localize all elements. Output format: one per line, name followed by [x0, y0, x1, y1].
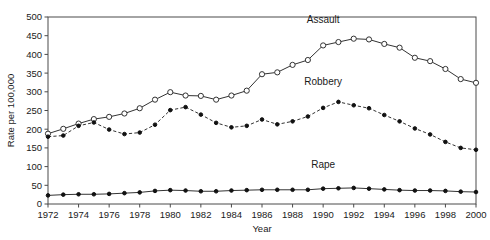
- data-point: [122, 111, 127, 116]
- x-tick-label: 1998: [435, 209, 456, 220]
- x-tick-label: 1990: [313, 209, 334, 220]
- x-tick-label: 1996: [404, 209, 425, 220]
- y-tick-label: 450: [26, 30, 42, 41]
- data-point: [428, 59, 433, 64]
- x-tick-label: 1982: [190, 209, 211, 220]
- x-tick-label: 1984: [221, 209, 242, 220]
- y-tick-label: 350: [26, 68, 42, 79]
- data-point: [184, 189, 188, 193]
- data-point: [275, 70, 280, 75]
- x-tick-label: 2000: [465, 209, 486, 220]
- data-point: [229, 93, 234, 98]
- x-tick-label: 1980: [160, 209, 181, 220]
- data-point: [61, 126, 66, 131]
- data-point: [153, 123, 157, 127]
- y-axis-title: Rate per 100,000: [5, 74, 16, 147]
- data-point: [321, 106, 325, 110]
- y-tick-label: 0: [37, 198, 42, 209]
- x-tick-label: 1978: [129, 209, 150, 220]
- data-point: [198, 93, 203, 98]
- series-robbery: [46, 100, 478, 151]
- data-point: [413, 127, 417, 131]
- crime-rate-line-chart: 0501001502002503003504004505001972197419…: [0, 0, 490, 240]
- data-point: [351, 36, 356, 41]
- data-point: [260, 188, 264, 192]
- data-point: [305, 57, 310, 62]
- data-point: [458, 76, 463, 81]
- data-point: [168, 90, 173, 95]
- data-point: [413, 189, 417, 193]
- data-point: [366, 37, 371, 42]
- data-point: [77, 124, 81, 128]
- data-point: [306, 188, 310, 192]
- series-label-robbery: Robbery: [304, 76, 342, 87]
- x-tick-label: 1988: [282, 209, 303, 220]
- plot-frame: [48, 17, 476, 204]
- data-point: [61, 134, 65, 138]
- data-point: [367, 187, 371, 191]
- data-point: [107, 114, 112, 119]
- data-point: [123, 191, 127, 195]
- data-point: [245, 124, 249, 128]
- data-point: [199, 189, 203, 193]
- data-point: [291, 120, 295, 124]
- data-point: [168, 188, 172, 192]
- data-point: [474, 148, 478, 152]
- data-point: [275, 123, 279, 127]
- chart-figure: 0501001502002503003504004505001972197419…: [0, 0, 490, 240]
- data-point: [244, 88, 249, 93]
- y-tick-label: 150: [26, 142, 42, 153]
- data-point: [459, 146, 463, 150]
- series-rape: [46, 186, 478, 197]
- y-tick-label: 50: [31, 180, 42, 191]
- data-point: [123, 132, 127, 136]
- x-tick-label: 1992: [343, 209, 364, 220]
- data-point: [290, 62, 295, 67]
- data-point: [291, 188, 295, 192]
- y-tick-label: 300: [26, 86, 42, 97]
- data-point: [259, 72, 264, 77]
- data-point: [138, 131, 142, 135]
- y-tick-label: 200: [26, 124, 42, 135]
- data-point: [152, 97, 157, 102]
- data-point: [107, 192, 111, 196]
- data-point: [382, 188, 386, 192]
- data-point: [184, 105, 188, 109]
- data-point: [168, 108, 172, 112]
- data-point: [459, 190, 463, 194]
- data-point: [412, 55, 417, 60]
- data-point: [183, 93, 188, 98]
- data-point: [306, 115, 310, 119]
- data-point: [397, 45, 402, 50]
- series-label-rape: Rape: [311, 159, 335, 170]
- data-point: [444, 140, 448, 144]
- data-point: [398, 120, 402, 124]
- data-point: [474, 190, 478, 194]
- data-point: [382, 113, 386, 117]
- data-point: [444, 189, 448, 193]
- data-point: [398, 188, 402, 192]
- series-label-assault: Assault: [307, 14, 340, 25]
- data-point: [61, 193, 65, 197]
- data-point: [321, 187, 325, 191]
- x-tick-label: 1972: [37, 209, 58, 220]
- data-point: [382, 41, 387, 46]
- data-point: [337, 100, 341, 104]
- data-point: [336, 39, 341, 44]
- data-point: [153, 189, 157, 193]
- y-tick-label: 400: [26, 49, 42, 60]
- x-tick-label: 1986: [251, 209, 272, 220]
- data-point: [443, 66, 448, 71]
- x-tick-label: 1994: [374, 209, 395, 220]
- data-point: [428, 133, 432, 137]
- data-point: [230, 126, 234, 130]
- data-point: [92, 192, 96, 196]
- data-point: [275, 188, 279, 192]
- data-point: [77, 192, 81, 196]
- data-point: [137, 106, 142, 111]
- data-point: [245, 188, 249, 192]
- data-point: [214, 97, 219, 102]
- data-point: [321, 43, 326, 48]
- y-tick-label: 500: [26, 11, 42, 22]
- data-point: [214, 189, 218, 193]
